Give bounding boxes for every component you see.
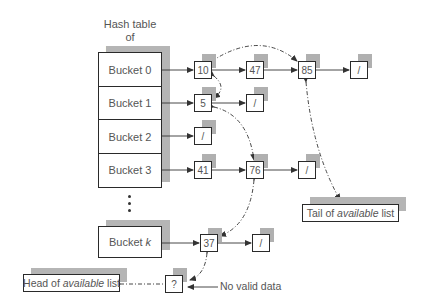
null-terminator: / — [252, 234, 270, 252]
node-10: 10 — [194, 61, 212, 79]
node-37: 37 — [200, 234, 218, 252]
no-valid-data-note: No valid data — [220, 280, 281, 292]
node-85: 85 — [298, 61, 316, 79]
node-47: 47 — [246, 61, 264, 79]
node-5: 5 — [194, 94, 212, 112]
head-of-available-list: Head of available list — [23, 274, 120, 292]
node-76: 76 — [246, 161, 264, 179]
null-terminator: / — [350, 61, 368, 79]
null-terminator: / — [298, 161, 316, 179]
tail-of-available-list: Tail of available list — [302, 204, 399, 222]
null-terminator: / — [246, 94, 264, 112]
node-41: 41 — [194, 161, 212, 179]
node-unknown: ? — [165, 275, 183, 293]
null-terminator: / — [194, 127, 212, 145]
